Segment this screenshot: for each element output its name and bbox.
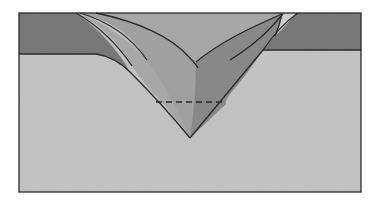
diagram-canvas [0, 0, 374, 216]
cross-section-svg [0, 0, 374, 216]
